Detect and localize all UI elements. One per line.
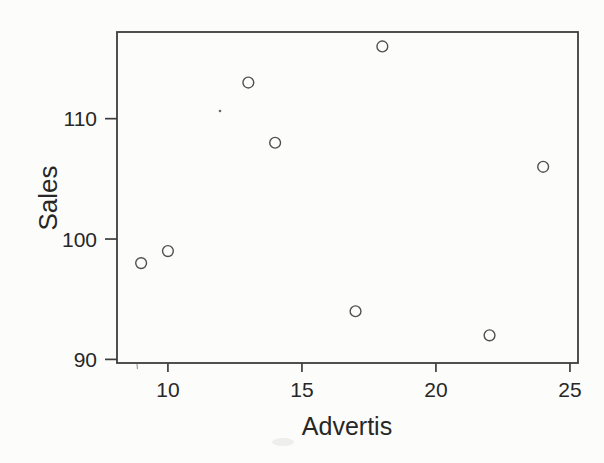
x-axis-ticks: 10152025 [156, 363, 581, 401]
scan-speck-artifact [219, 110, 222, 113]
data-point [243, 77, 254, 88]
x-axis-label: Advertis [302, 412, 392, 440]
data-point [136, 258, 147, 269]
data-point [270, 137, 281, 148]
data-point [163, 246, 174, 257]
x-tick-label: 10 [156, 378, 179, 401]
y-tick-label: 110 [64, 107, 97, 130]
data-point [538, 161, 549, 172]
y-tick-label: 90 [74, 348, 97, 371]
scanned-page: 10152025 90100110 Advertis Sales [0, 0, 604, 463]
y-axis-label: Sales [33, 165, 63, 230]
data-point [484, 330, 495, 341]
y-tick-label: 100 [62, 228, 97, 251]
x-tick-label: 15 [290, 378, 313, 401]
data-point [350, 306, 361, 317]
x-tick-label: 20 [424, 378, 447, 401]
scan-smudge-artifact [272, 438, 294, 446]
scan-partial-tick-artifact [137, 364, 138, 369]
data-point [377, 41, 388, 52]
x-tick-label: 25 [558, 378, 581, 401]
y-axis-ticks: 90100110 [62, 107, 117, 371]
scatter-plot: 10152025 90100110 Advertis Sales [0, 0, 604, 463]
plot-frame [117, 32, 578, 363]
data-points [136, 41, 549, 341]
